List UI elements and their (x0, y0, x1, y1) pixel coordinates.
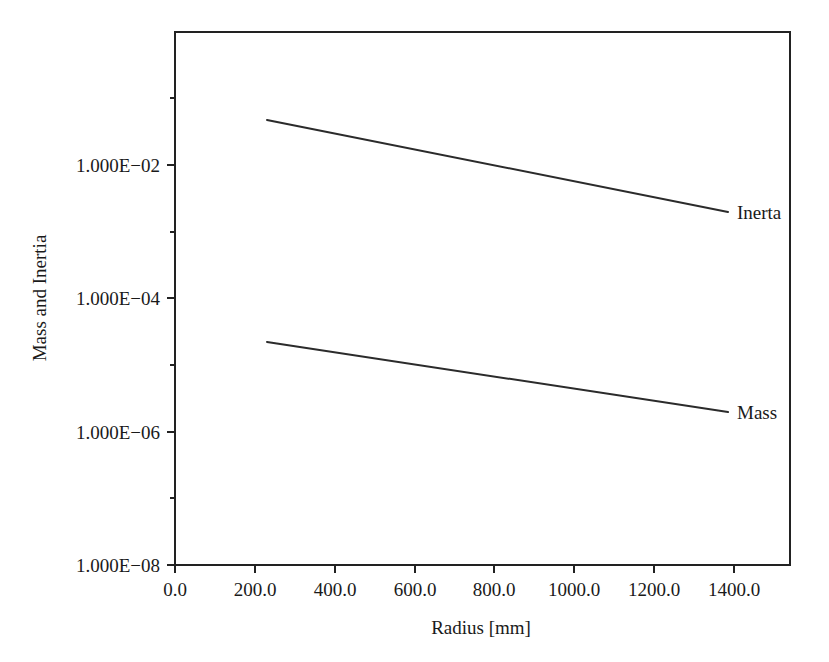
x-tick-label-600: 600.0 (394, 579, 437, 600)
x-tick-label-1400: 1400.0 (708, 579, 760, 600)
x-tick-label-1000: 1000.0 (548, 579, 600, 600)
x-tick-label-0: 0.0 (163, 579, 187, 600)
x-axis-title: Radius [mm] (431, 617, 531, 638)
data-series-group (267, 120, 728, 412)
chart-figure: 1.000E−02 1.000E−04 1.000E−06 1.000E−08 … (0, 0, 829, 662)
x-tick-label-200: 200.0 (234, 579, 277, 600)
series-label-inerta: Inerta (737, 202, 782, 223)
y-tick-label-1e-08: 1.000E−08 (76, 555, 160, 576)
x-axis-ticks (175, 565, 734, 573)
series-line-mass (267, 342, 728, 412)
series-line-inerta (267, 120, 728, 212)
x-tick-label-400: 400.0 (314, 579, 357, 600)
x-tick-label-1200: 1200.0 (628, 579, 680, 600)
x-tick-label-800: 800.0 (473, 579, 516, 600)
x-axis-tick-labels: 0.0 200.0 400.0 600.0 800.0 1000.0 1200.… (163, 579, 760, 600)
series-label-mass: Mass (737, 402, 777, 423)
y-tick-label-1e-04: 1.000E−04 (76, 288, 161, 309)
chart-canvas: 1.000E−02 1.000E−04 1.000E−06 1.000E−08 … (0, 0, 829, 662)
y-axis-tick-labels: 1.000E−02 1.000E−04 1.000E−06 1.000E−08 (76, 155, 161, 576)
y-axis-title: Mass and Inertia (29, 234, 50, 361)
y-tick-label-1e-02: 1.000E−02 (76, 155, 160, 176)
y-axis-ticks (167, 98, 175, 565)
plot-border (175, 32, 790, 565)
y-tick-label-1e-06: 1.000E−06 (76, 422, 160, 443)
plot-frame (175, 32, 790, 565)
